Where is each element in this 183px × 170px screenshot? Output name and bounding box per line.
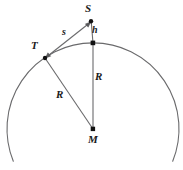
label-point-s: S (85, 3, 91, 14)
point-marker-M (91, 127, 95, 131)
point-marker-S (89, 19, 93, 23)
segment-radius-diagonal (45, 58, 92, 128)
label-point-m: M (88, 134, 98, 145)
label-point-t: T (31, 40, 38, 51)
segment-s (47, 23, 90, 57)
label-segment-h: h (92, 25, 98, 35)
point-marker-circle-top (91, 41, 96, 46)
label-segment-s: s (62, 27, 66, 37)
point-marker-T (43, 56, 47, 60)
label-radius-diagonal: R (56, 89, 63, 100)
diagram-canvas: S T M s h R R (0, 0, 183, 170)
label-radius-vertical: R (95, 71, 102, 82)
